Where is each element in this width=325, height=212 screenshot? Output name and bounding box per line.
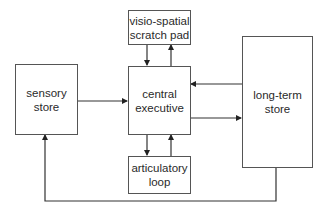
central-executive-box: central executive — [128, 66, 191, 135]
long-term-store-box: long-term store — [242, 36, 313, 168]
central-line1: central — [135, 87, 184, 101]
visio-spatial-line1: visio-spatial — [129, 14, 189, 28]
articulatory-loop-box: articulatory loop — [128, 156, 191, 194]
sensory-line2: store — [26, 100, 66, 114]
longterm-line1: long-term — [253, 88, 302, 102]
central-line2: executive — [135, 101, 184, 115]
longterm-line2: store — [253, 102, 302, 116]
visio-spatial-scratch-pad-box: visio-spatial scratch pad — [128, 10, 191, 45]
articulatory-line1: articulatory — [131, 161, 187, 175]
visio-spatial-line2: scratch pad — [129, 28, 189, 42]
sensory-line1: sensory — [26, 86, 66, 100]
articulatory-line2: loop — [131, 175, 187, 189]
sensory-store-box: sensory store — [15, 64, 78, 135]
